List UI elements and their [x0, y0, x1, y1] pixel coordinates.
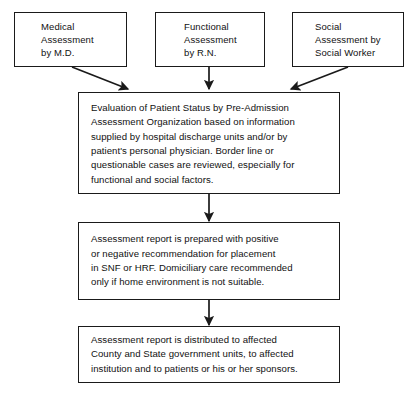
node-assessment-report-distributed-label: Assessment report is distributed to affe…: [79, 333, 306, 376]
node-assessment-report-prepared: Assessment report is prepared with posit…: [78, 222, 340, 300]
node-evaluation-of-patient-status-label: Evaluation of Patient Status by Pre-Admi…: [79, 99, 303, 187]
flowchart-diagram: Medical Assessment by M.D. Functional As…: [0, 0, 418, 400]
node-medical-assessment-label: Medical Assessment by M.D.: [15, 20, 94, 60]
node-assessment-report-prepared-label: Assessment report is prepared with posit…: [79, 232, 301, 290]
node-evaluation-of-patient-status: Evaluation of Patient Status by Pre-Admi…: [78, 92, 340, 194]
node-assessment-report-distributed: Assessment report is distributed to affe…: [78, 326, 340, 383]
node-social-assessment-label: Social Assessment by Social Worker: [293, 20, 381, 60]
edge-social-to-evaluation: [291, 67, 348, 89]
node-social-assessment: Social Assessment by Social Worker: [292, 12, 404, 67]
edge-medical-to-evaluation: [72, 67, 128, 89]
node-medical-assessment: Medical Assessment by M.D.: [14, 12, 127, 67]
node-functional-assessment-label: Functional Assessment by R.N.: [156, 20, 237, 60]
node-functional-assessment: Functional Assessment by R.N.: [155, 12, 265, 67]
